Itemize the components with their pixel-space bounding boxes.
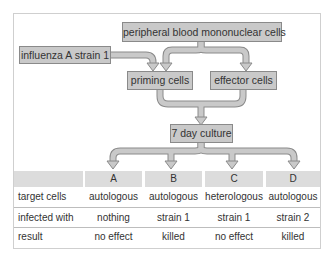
header-blank (14, 171, 83, 187)
cell: strain 1 (205, 208, 263, 227)
priming-cells-box: priming cells (127, 71, 193, 90)
pbmc-box: peripheral blood mononuclear cells (122, 22, 282, 42)
header-col-d: D (266, 171, 320, 187)
culture-box: 7 day culture (170, 124, 233, 143)
cell: autologous (266, 187, 320, 207)
row-label: target cells (14, 187, 84, 207)
table-header-row: A B C D (14, 171, 320, 187)
header-col-c: C (205, 171, 263, 187)
cell: no effect (205, 228, 263, 246)
cell: heterologous (205, 187, 263, 207)
influenza-box: influenza A strain 1 (19, 46, 111, 64)
cell: no effect (85, 228, 142, 246)
row-label: infected with (14, 208, 84, 227)
cell: killed (266, 228, 320, 246)
table-row: infected with nothing strain 1 strain 1 … (14, 208, 320, 227)
cell: strain 2 (266, 208, 320, 227)
cell: strain 1 (145, 208, 202, 227)
cell: nothing (85, 208, 142, 227)
table-row: target cells autologous autologous heter… (14, 187, 320, 207)
header-col-a: A (85, 171, 142, 187)
table-row: result no effect killed no effect killed (14, 228, 320, 246)
effector-cells-box: effector cells (210, 71, 277, 90)
cell: autologous (145, 187, 202, 207)
cell: killed (145, 228, 202, 246)
row-label: result (14, 228, 84, 246)
header-col-b: B (145, 171, 202, 187)
cell: autologous (85, 187, 142, 207)
